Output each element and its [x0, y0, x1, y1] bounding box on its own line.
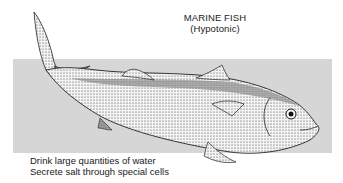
dorsal-fin-rear	[196, 65, 230, 80]
caption-line-secrete: Secrete salt through special cells	[30, 166, 169, 177]
subtitle-text: (Hypotonic)	[160, 23, 270, 34]
title-text: MARINE FISH	[160, 12, 270, 23]
diagram-title: MARINE FISH (Hypotonic)	[160, 12, 270, 34]
caption-line-drink: Drink large quantities of water	[30, 155, 169, 166]
caption-block: Drink large quantities of water Secrete …	[30, 155, 169, 177]
